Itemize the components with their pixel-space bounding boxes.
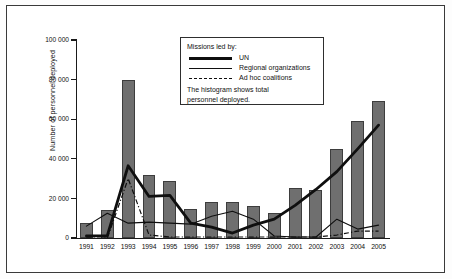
y-tick-label: 100 000: [0, 36, 69, 43]
legend-entry-un: UN: [187, 53, 318, 63]
legend-entry-ad-hoc-coalitions: Ad hoc coalitions: [187, 73, 318, 83]
x-tick-label: 2000: [263, 243, 285, 250]
dash-dot-line-key-icon: [187, 74, 234, 83]
chart-legend: Missions led by: UN Regional organizatio…: [180, 37, 324, 105]
y-tick-label: 0: [0, 234, 69, 241]
y-tick-label: 40 000: [0, 155, 69, 162]
x-axis-line: [76, 238, 390, 239]
legend-note-line-2: personnel deployed.: [187, 95, 318, 104]
line-ad-hoc-coalitions: [86, 179, 378, 238]
thin-solid-line-key-icon: [187, 64, 234, 73]
legend-label-ad-hoc-coalitions: Ad hoc coalitions: [239, 73, 292, 83]
x-tick-label: 1999: [242, 243, 264, 250]
x-tick-label: 1994: [138, 243, 160, 250]
x-tick-label: 1998: [222, 243, 244, 250]
x-tick-label: 2005: [368, 243, 390, 250]
x-tick-label: 1996: [180, 243, 202, 250]
x-tick-label: 2002: [305, 243, 327, 250]
legend-label-un: UN: [239, 53, 249, 63]
x-tick-label: 1991: [75, 243, 97, 250]
chart-figure: Number of personnel deployed 020 00040 0…: [0, 0, 452, 279]
y-tick-label: 20 000: [0, 195, 69, 202]
x-tick-label: 1997: [201, 243, 223, 250]
x-tick-label: 2003: [326, 243, 348, 250]
legend-title: Missions led by:: [187, 42, 318, 52]
y-tick-label: 80 000: [0, 76, 69, 83]
x-tick-label: 2001: [284, 243, 306, 250]
y-tick-label: 60 000: [0, 115, 69, 122]
x-tick-label: 1992: [96, 243, 118, 250]
legend-note: The histogram shows total personnel depl…: [187, 85, 318, 104]
legend-entry-regional-organizations: Regional organizations: [187, 63, 318, 73]
legend-label-regional-organizations: Regional organizations: [239, 63, 310, 73]
x-tick-label: 1995: [159, 243, 181, 250]
x-tick-label: 2004: [347, 243, 369, 250]
legend-note-line-1: The histogram shows total: [187, 85, 318, 94]
thick-solid-line-key-icon: [187, 54, 234, 63]
x-tick-label: 1993: [117, 243, 139, 250]
line-un: [86, 125, 378, 236]
